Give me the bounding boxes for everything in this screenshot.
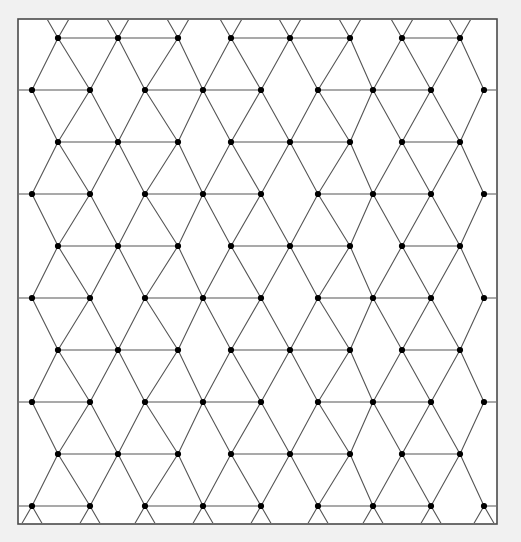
lattice-node — [228, 347, 234, 353]
lattice-node — [481, 191, 487, 197]
lattice-node — [87, 503, 93, 509]
lattice-node — [29, 399, 35, 405]
lattice-node — [29, 503, 35, 509]
lattice-node — [370, 295, 376, 301]
lattice-node — [142, 87, 148, 93]
lattice-node — [399, 243, 405, 249]
lattice-node — [200, 399, 206, 405]
lattice-node — [55, 139, 61, 145]
lattice-node — [370, 399, 376, 405]
lattice-node — [175, 35, 181, 41]
lattice-node — [347, 243, 353, 249]
lattice-node — [287, 347, 293, 353]
lattice-node — [315, 191, 321, 197]
lattice-node — [315, 87, 321, 93]
lattice-node — [428, 399, 434, 405]
lattice-node — [258, 399, 264, 405]
lattice-node — [115, 451, 121, 457]
lattice-node — [142, 399, 148, 405]
lattice-node — [29, 87, 35, 93]
lattice-node — [287, 243, 293, 249]
lattice-node — [87, 191, 93, 197]
lattice-node — [428, 87, 434, 93]
lattice-node — [457, 451, 463, 457]
lattice-node — [399, 139, 405, 145]
lattice-node — [200, 87, 206, 93]
lattice-node — [481, 87, 487, 93]
figure-canvas — [0, 0, 521, 542]
lattice-node — [315, 399, 321, 405]
lattice-node — [142, 503, 148, 509]
lattice-node — [315, 295, 321, 301]
lattice-node — [142, 191, 148, 197]
lattice-node — [481, 399, 487, 405]
lattice-node — [457, 35, 463, 41]
lattice-node — [347, 347, 353, 353]
lattice-node — [481, 295, 487, 301]
lattice-node — [29, 295, 35, 301]
lattice-node — [115, 139, 121, 145]
lattice-node — [115, 243, 121, 249]
lattice-node — [87, 87, 93, 93]
lattice-node — [457, 347, 463, 353]
lattice-node — [55, 347, 61, 353]
lattice-node — [55, 451, 61, 457]
lattice-node — [370, 87, 376, 93]
lattice-node — [428, 503, 434, 509]
lattice-node — [399, 35, 405, 41]
lattice-node — [228, 139, 234, 145]
lattice-node — [258, 191, 264, 197]
lattice-node — [287, 35, 293, 41]
lattice-node — [175, 451, 181, 457]
lattice-node — [399, 347, 405, 353]
lattice-node — [115, 347, 121, 353]
lattice-node — [457, 243, 463, 249]
plot-background — [18, 19, 497, 524]
lattice-node — [258, 295, 264, 301]
lattice-node — [428, 295, 434, 301]
lattice-node — [481, 503, 487, 509]
lattice-node — [200, 295, 206, 301]
outer-border — [18, 19, 497, 524]
lattice-node — [370, 191, 376, 197]
lattice-node — [370, 503, 376, 509]
lattice-node — [87, 295, 93, 301]
lattice-node — [200, 191, 206, 197]
lattice-node — [228, 243, 234, 249]
lattice-node — [200, 503, 206, 509]
lattice-node — [29, 191, 35, 197]
lattice-node — [457, 139, 463, 145]
lattice-diagram — [0, 0, 521, 542]
lattice-node — [87, 399, 93, 405]
lattice-node — [55, 35, 61, 41]
lattice-node — [258, 503, 264, 509]
lattice-node — [142, 295, 148, 301]
lattice-node — [347, 139, 353, 145]
lattice-node — [287, 451, 293, 457]
lattice-node — [115, 35, 121, 41]
lattice-node — [175, 243, 181, 249]
lattice-node — [287, 139, 293, 145]
lattice-node — [228, 35, 234, 41]
lattice-node — [399, 451, 405, 457]
lattice-node — [428, 191, 434, 197]
lattice-node — [315, 503, 321, 509]
lattice-node — [258, 87, 264, 93]
lattice-node — [347, 35, 353, 41]
lattice-node — [175, 139, 181, 145]
lattice-node — [228, 451, 234, 457]
lattice-node — [347, 451, 353, 457]
lattice-node — [175, 347, 181, 353]
lattice-node — [55, 243, 61, 249]
